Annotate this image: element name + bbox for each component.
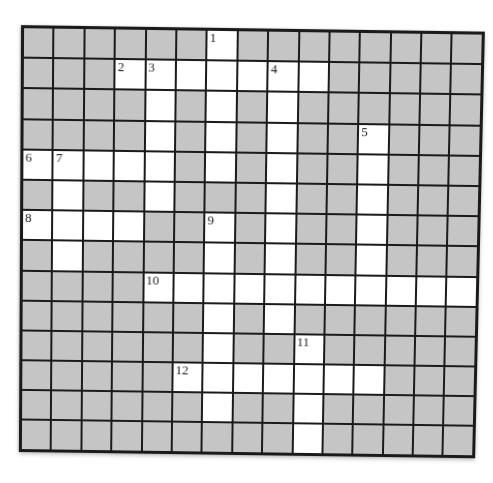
open-cell-r8c8[interactable] [264, 274, 295, 304]
open-cell-r11c8[interactable] [263, 364, 294, 394]
open-cell-r4c6[interactable] [205, 152, 236, 183]
blocked-cell-r4c9 [296, 153, 327, 184]
open-cell-r1c7[interactable] [237, 61, 268, 92]
blocked-cell-r10c7 [233, 333, 264, 363]
open-cell-r11c5[interactable]: 12 [172, 362, 203, 392]
blocked-cell-r13c12 [383, 425, 414, 455]
blocked-cell-r9c10 [324, 305, 355, 335]
clue-number-5: 5 [361, 125, 368, 140]
blocked-cell-r5c3 [113, 181, 144, 212]
open-cell-r11c11[interactable] [354, 365, 385, 395]
blocked-cell-r5c14 [448, 186, 479, 217]
open-cell-r8c11[interactable] [355, 275, 386, 305]
open-cell-r11c10[interactable] [323, 364, 354, 394]
blocked-cell-r11c12 [384, 365, 415, 395]
open-cell-r2c4[interactable] [145, 90, 176, 121]
blocked-cell-r10c3 [112, 332, 143, 362]
blocked-cell-r2c11 [358, 93, 389, 124]
open-cell-r8c12[interactable] [386, 275, 417, 305]
open-cell-r6c8[interactable] [265, 213, 296, 244]
blocked-cell-r11c4 [142, 362, 173, 392]
open-cell-r1c8[interactable]: 4 [267, 61, 298, 92]
open-cell-r6c1[interactable] [52, 210, 83, 241]
blocked-cell-r12c12 [383, 395, 414, 425]
open-cell-r6c0[interactable]: 8 [22, 210, 53, 241]
open-cell-r0c6[interactable]: 1 [207, 30, 238, 61]
open-cell-r6c11[interactable] [356, 215, 387, 246]
blocked-cell-r7c3 [113, 241, 144, 272]
blocked-cell-r9c14 [445, 306, 476, 336]
open-cell-r9c8[interactable] [264, 304, 295, 334]
blocked-cell-r9c13 [415, 306, 446, 336]
open-cell-r5c1[interactable] [53, 180, 84, 211]
blocked-cell-r12c2 [81, 391, 111, 421]
open-cell-r5c11[interactable] [357, 184, 388, 215]
open-cell-r7c6[interactable] [204, 243, 235, 274]
open-cell-r1c5[interactable] [176, 60, 207, 91]
open-cell-r4c2[interactable] [83, 150, 114, 181]
open-cell-r8c4[interactable]: 10 [143, 272, 174, 302]
open-cell-r3c6[interactable] [205, 121, 236, 152]
blocked-cell-r11c14 [444, 366, 475, 396]
open-cell-r1c4[interactable]: 3 [145, 60, 176, 91]
open-cell-r12c6[interactable] [202, 393, 233, 423]
blocked-cell-r11c13 [414, 366, 445, 396]
blocked-cell-r12c10 [323, 394, 354, 424]
open-cell-r1c3[interactable]: 2 [114, 59, 145, 90]
blocked-cell-r13c13 [413, 425, 444, 455]
blocked-cell-r3c0 [22, 119, 53, 150]
open-cell-r9c6[interactable] [203, 303, 234, 333]
open-cell-r4c3[interactable] [114, 151, 145, 182]
blocked-cell-r2c13 [420, 94, 451, 125]
open-cell-r3c4[interactable] [144, 121, 175, 152]
open-cell-r5c4[interactable] [144, 181, 175, 212]
open-cell-r7c8[interactable] [265, 244, 296, 275]
open-cell-r4c8[interactable] [266, 153, 297, 184]
open-cell-r12c9[interactable] [293, 394, 324, 424]
open-cell-r5c8[interactable] [266, 183, 297, 214]
open-cell-r4c1[interactable]: 7 [53, 150, 84, 181]
blocked-cell-r5c6 [205, 182, 236, 213]
open-cell-r8c10[interactable] [325, 275, 356, 305]
open-cell-r1c9[interactable] [298, 62, 329, 93]
open-cell-r1c6[interactable] [206, 60, 237, 91]
open-cell-r10c9[interactable]: 11 [294, 334, 325, 364]
open-cell-r10c6[interactable] [203, 333, 234, 363]
blocked-cell-r9c5 [173, 302, 204, 332]
open-cell-r13c9[interactable] [292, 424, 323, 454]
blocked-cell-r8c0 [22, 270, 53, 300]
open-cell-r7c1[interactable] [52, 241, 83, 272]
blocked-cell-r1c10 [328, 62, 359, 93]
blocked-cell-r13c0 [21, 420, 51, 450]
open-cell-r6c2[interactable] [83, 211, 114, 242]
blocked-cell-r3c13 [419, 124, 450, 155]
blocked-cell-r2c3 [114, 90, 145, 121]
blocked-cell-r0c14 [451, 33, 482, 64]
open-cell-r8c13[interactable] [416, 276, 447, 306]
open-cell-r4c11[interactable] [357, 154, 388, 185]
blocked-cell-r3c9 [297, 123, 328, 154]
blocked-cell-r4c12 [388, 154, 419, 185]
blocked-cell-r1c0 [23, 58, 54, 89]
open-cell-r6c6[interactable]: 9 [204, 212, 235, 243]
open-cell-r11c6[interactable] [203, 363, 234, 393]
open-cell-r3c8[interactable] [266, 122, 297, 153]
open-cell-r2c6[interactable] [206, 91, 237, 122]
open-cell-r11c7[interactable] [233, 363, 264, 393]
blocked-cell-r2c12 [389, 94, 420, 125]
open-cell-r8c7[interactable] [234, 273, 265, 303]
blocked-cell-r6c9 [296, 214, 327, 245]
open-cell-r2c8[interactable] [267, 92, 298, 123]
open-cell-r8c5[interactable] [173, 272, 204, 302]
blocked-cell-r0c1 [54, 28, 85, 59]
open-cell-r11c9[interactable] [293, 364, 324, 394]
open-cell-r8c6[interactable] [204, 273, 235, 303]
blocked-cell-r11c0 [21, 360, 51, 390]
open-cell-r4c0[interactable]: 6 [22, 149, 53, 180]
open-cell-r4c4[interactable] [144, 151, 175, 182]
open-cell-r3c11[interactable]: 5 [358, 124, 389, 155]
open-cell-r8c14[interactable] [446, 276, 477, 306]
open-cell-r8c9[interactable] [295, 274, 326, 304]
open-cell-r6c3[interactable] [113, 211, 144, 242]
open-cell-r7c11[interactable] [356, 245, 387, 276]
